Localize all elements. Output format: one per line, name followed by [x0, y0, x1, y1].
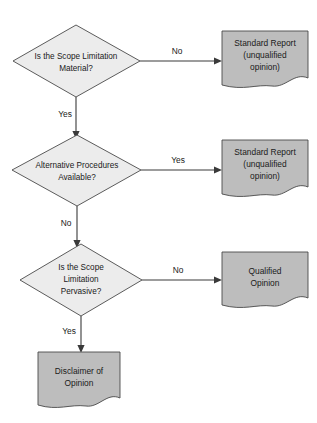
node-decision-alternative-procedures-available[interactable]: Alternative Procedures Available?	[12, 135, 141, 206]
node-label-line-2: Opinion	[65, 378, 94, 388]
edge-label-no-1: No	[172, 46, 183, 56]
node-document-standard-report-2[interactable]: Standard Report (unqualified opinion)	[222, 140, 308, 196]
node-label-line-2: Limitation	[63, 275, 98, 284]
diamond-shape	[12, 135, 141, 206]
node-document-disclaimer-of-opinion[interactable]: Disclaimer of Opinion	[38, 352, 120, 407]
node-document-qualified-opinion[interactable]: Qualified Opinion	[222, 252, 308, 307]
arrow-head-icon	[214, 276, 222, 283]
edge-decision3-to-document3: No	[142, 265, 222, 283]
node-decision-scope-limitation-pervasive[interactable]: Is the Scope Limitation Pervasive?	[20, 244, 142, 316]
node-label-line-1: Is the Scope Limitation	[35, 52, 118, 61]
arrow-head-icon	[214, 166, 222, 173]
node-label-line-2: Available?	[58, 173, 96, 182]
flowchart-diagram: No Yes Yes No No Yes	[0, 0, 317, 423]
edge-decision2-to-document2: Yes	[141, 155, 222, 173]
edge-decision2-to-decision3: No	[61, 206, 81, 248]
edge-label-yes-1: Yes	[58, 109, 72, 119]
arrow-head-icon	[214, 57, 222, 64]
edge-label-no-3: No	[173, 265, 184, 275]
node-label-line-2: (unqualified	[243, 50, 287, 60]
node-label-line-2: Material?	[59, 64, 93, 73]
node-label-line-1: Alternative Procedures	[36, 161, 119, 170]
node-label-line-3: opinion)	[250, 62, 280, 72]
node-label-line-3: Pervasive?	[61, 287, 102, 296]
node-decision-scope-limitation-material[interactable]: Is the Scope Limitation Material?	[13, 25, 140, 97]
edge-label-no-2: No	[61, 218, 72, 228]
node-label-line-1: Standard Report	[234, 147, 296, 157]
node-label-line-1: Is the Scope	[58, 263, 104, 272]
node-label-line-2: (unqualified	[243, 159, 287, 169]
edge-decision3-to-document4: Yes	[62, 316, 84, 353]
edge-decision1-to-decision2: Yes	[58, 97, 79, 139]
edge-decision1-to-document1: No	[140, 46, 222, 64]
node-label-line-1: Disclaimer of	[55, 366, 104, 376]
flowchart-canvas: No Yes Yes No No Yes	[0, 0, 317, 423]
node-label-line-2: Opinion	[251, 278, 280, 288]
node-label-line-3: opinion)	[250, 171, 280, 181]
node-label-line-1: Standard Report	[234, 38, 296, 48]
node-label-line-1: Qualified	[248, 266, 281, 276]
node-document-standard-report-1[interactable]: Standard Report (unqualified opinion)	[222, 31, 308, 87]
edge-label-yes-2: Yes	[171, 155, 185, 165]
edge-label-yes-3: Yes	[62, 326, 76, 336]
